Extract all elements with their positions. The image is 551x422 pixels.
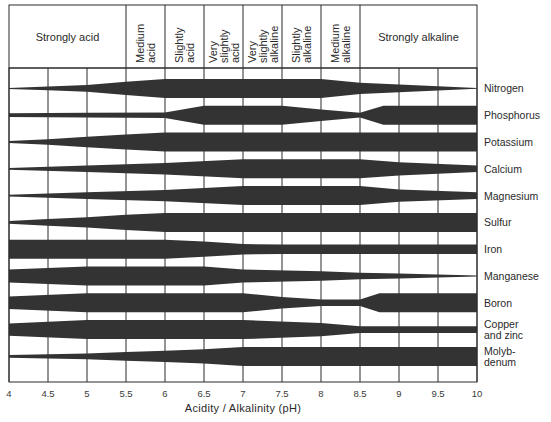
- band-copper-and-zinc: [9, 320, 477, 339]
- x-tick-label: 5: [84, 388, 89, 399]
- nutrient-bands: [9, 79, 477, 366]
- band-phosphorus: [9, 106, 477, 125]
- svg-text:Strongly alkaline: Strongly alkaline: [378, 31, 459, 43]
- nutrient-label: Potassium: [484, 136, 533, 148]
- svg-text:Strongly acid: Strongly acid: [36, 31, 100, 43]
- nutrient-label: Iron: [484, 243, 502, 255]
- band-calcium: [9, 159, 477, 178]
- band-molybdenum: [9, 347, 477, 366]
- ph-zone-medium-acid: Mediumacid: [134, 24, 157, 63]
- x-tick-label: 8.5: [353, 388, 366, 399]
- svg-text:alkaline: alkaline: [340, 26, 352, 63]
- nutrient-label: denum: [484, 356, 516, 368]
- ph-zone-very-slightly-alkaline: Veryslightlyalkaline: [246, 26, 280, 63]
- ph-zone-very-slightly-acid: Veryslightlyacid: [207, 29, 241, 63]
- svg-text:acid: acid: [229, 43, 241, 63]
- nutrient-label: Manganese: [484, 270, 539, 282]
- x-axis-title: Acidity / Alkalinity (pH): [185, 402, 301, 414]
- x-tick-label: 7.5: [275, 388, 288, 399]
- ph-zone-strongly-acid: Strongly acid: [36, 31, 100, 43]
- nutrient-label: Magnesium: [484, 190, 539, 202]
- nutrient-label: Copper: [484, 318, 519, 330]
- x-tick-label: 8: [318, 388, 323, 399]
- svg-text:acid: acid: [145, 43, 157, 63]
- ph-zone-header: Strongly acidMediumacidSlightlyacidVerys…: [9, 5, 477, 68]
- x-tick-label: 6.5: [197, 388, 210, 399]
- x-tick-label: 10: [472, 388, 483, 399]
- ph-zone-strongly-alkaline: Strongly alkaline: [378, 31, 459, 43]
- x-tick-label: 6: [162, 388, 167, 399]
- nutrient-label: and zinc: [484, 329, 523, 341]
- nutrient-availability-chart: Strongly acidMediumacidSlightlyacidVerys…: [0, 0, 551, 422]
- x-tick-label: 9.5: [431, 388, 444, 399]
- x-axis-ticks: 44.555.566.577.588.599.510: [6, 388, 482, 399]
- nutrient-label: Boron: [484, 297, 512, 309]
- nutrient-label: Sulfur: [484, 216, 512, 228]
- nutrient-label: Phosphorus: [484, 109, 540, 121]
- svg-text:acid: acid: [184, 43, 196, 63]
- x-tick-label: 4.5: [41, 388, 54, 399]
- band-nitrogen: [9, 79, 477, 98]
- nutrient-label: Nitrogen: [484, 82, 524, 94]
- band-boron: [9, 293, 477, 312]
- nutrient-labels: NitrogenPhosphorusPotassiumCalciumMagnes…: [484, 82, 540, 368]
- svg-text:alkaline: alkaline: [268, 26, 280, 63]
- band-potassium: [9, 133, 477, 152]
- nutrient-label: Molyb-: [484, 345, 516, 357]
- x-tick-label: 4: [6, 388, 11, 399]
- ph-zone-slightly-alkaline: Slightlyalkaline: [290, 26, 313, 63]
- x-tick-label: 7: [240, 388, 245, 399]
- svg-text:alkaline: alkaline: [301, 26, 313, 63]
- nutrient-label: Calcium: [484, 163, 522, 175]
- x-tick-label: 5.5: [119, 388, 132, 399]
- band-sulfur: [9, 213, 477, 232]
- ph-zone-medium-alkaline: Mediumalkaline: [329, 24, 352, 63]
- x-tick-label: 9: [396, 388, 401, 399]
- ph-zone-slightly-acid: Slightlyacid: [173, 27, 196, 63]
- band-magnesium: [9, 186, 477, 205]
